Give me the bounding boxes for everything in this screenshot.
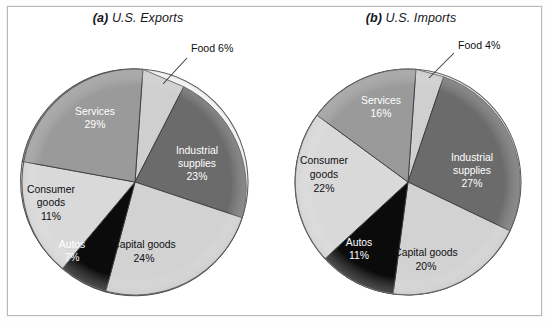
label-industrial-value-imports: 27%: [462, 178, 483, 189]
pie-chart-exports: Food 6% Industrial supplies 23% Capital …: [1, 0, 275, 323]
label-industrial-line1-exports: Industrial: [176, 145, 218, 156]
pie-chart-imports: Food 4% Industrial supplies 27% Capital …: [274, 0, 548, 323]
label-food-exports: Food 6%: [191, 42, 234, 54]
label-services-value-exports: 29%: [85, 119, 106, 130]
label-autos-value-exports: 7%: [64, 252, 79, 263]
label-capital-value-exports: 24%: [134, 253, 155, 264]
label-autos-line1-imports: Autos: [346, 237, 373, 248]
label-consumer-line2-exports: goods: [37, 197, 65, 208]
label-industrial-line2-imports: supplies: [453, 165, 491, 176]
label-industrial-line1-imports: Industrial: [451, 152, 493, 163]
label-services-line1-exports: Services: [75, 106, 115, 117]
label-capital-value-imports: 20%: [416, 261, 437, 272]
label-autos-line1-exports: Autos: [59, 239, 86, 250]
label-consumer-line2-imports: goods: [310, 169, 338, 180]
label-services-line1-imports: Services: [361, 95, 401, 106]
label-consumer-value-imports: 22%: [314, 183, 335, 194]
panel-us-imports: (b) U.S. Imports: [274, 0, 548, 323]
label-capital-line1-imports: Capital goods: [394, 247, 458, 258]
label-consumer-line1-imports: Consumer: [300, 155, 348, 166]
figure-container: (a) U.S. Exports: [0, 0, 549, 323]
label-capital-line1-exports: Capital goods: [112, 239, 176, 250]
label-services-value-imports: 16%: [371, 108, 392, 119]
label-industrial-line2-exports: supplies: [178, 158, 216, 169]
label-autos-value-imports: 11%: [349, 250, 369, 261]
label-food-imports: Food 4%: [458, 39, 501, 51]
panel-us-exports: (a) U.S. Exports: [1, 0, 275, 323]
label-consumer-line1-exports: Consumer: [27, 184, 75, 195]
label-industrial-value-exports: 23%: [187, 171, 208, 182]
label-consumer-value-exports: 11%: [41, 211, 61, 222]
